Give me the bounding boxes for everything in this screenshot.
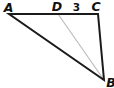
triangle-figure: A D 3 C B [0,0,114,88]
point-label-A: A [3,0,14,15]
cevian-segment-DB [58,14,104,80]
point-label-B: B [106,75,114,88]
point-label-C: C [91,0,101,14]
segment-length-DC: 3 [73,1,80,13]
triangle-outline-ACB [9,14,104,80]
triangle-diagram-svg: A D 3 C B [0,0,114,88]
point-label-D: D [52,0,62,14]
